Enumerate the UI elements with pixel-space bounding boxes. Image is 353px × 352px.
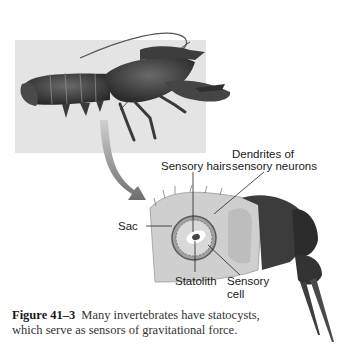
label-sac: Sac [118,220,138,232]
crayfish-illustration [0,0,353,352]
label-dendrites-line2: sensory neurons [232,160,317,172]
figure-caption: Figure 41–3Many invertebrates have stato… [12,308,272,338]
label-sensory-hairs: Sensory hairs [161,160,231,172]
label-sensory-cell-line1: Sensory [227,275,269,287]
label-dendrites-line1: Dendrites of [232,148,294,160]
label-sensory-cell-line2: cell [227,288,244,300]
figure-number: Figure 41–3 [12,308,75,322]
figure: Sensory hairs Dendrites of sensory neuro… [0,0,353,352]
label-statolith: Statolith [175,275,217,287]
